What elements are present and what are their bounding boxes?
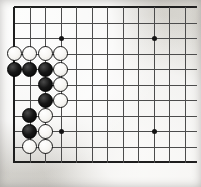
white-stone (38, 124, 53, 139)
white-stone (38, 46, 53, 61)
go-board-diagram: Go board corner position (0, 0, 201, 187)
white-stone (53, 77, 68, 92)
black-stone (7, 62, 22, 77)
white-stone (22, 46, 37, 61)
black-stone (22, 62, 37, 77)
white-stone (22, 139, 37, 154)
black-stone (22, 108, 37, 123)
black-stone (38, 93, 53, 108)
black-stone (38, 77, 53, 92)
black-stone (38, 62, 53, 77)
white-stone (53, 46, 68, 61)
white-stone (38, 108, 53, 123)
white-stone (53, 93, 68, 108)
black-stone (22, 124, 37, 139)
white-stone (53, 62, 68, 77)
stone-layer (0, 0, 201, 187)
white-stone (7, 46, 22, 61)
white-stone (38, 139, 53, 154)
